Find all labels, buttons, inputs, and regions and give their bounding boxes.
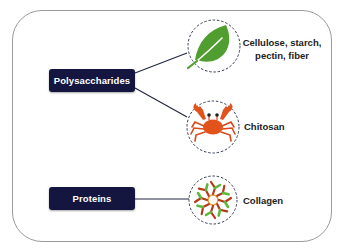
item-label-collagen: Collagen	[243, 194, 283, 207]
connector-line-polysaccharides-leaf	[135, 53, 187, 73]
category-label: Proteins	[73, 193, 112, 204]
category-label: Polysaccharides	[54, 75, 131, 86]
leaf-node	[188, 20, 240, 72]
connector-line-polysaccharides-crab	[135, 88, 187, 117]
collagen-node	[189, 176, 237, 224]
item-label-cellulose: Cellulose, starch, pectin, fiber	[242, 36, 322, 62]
item-label-chitosan: Chitosan	[244, 120, 285, 133]
category-box-proteins: Proteins	[49, 187, 135, 210]
label-line-1: Cellulose, starch,	[242, 36, 322, 49]
crab-node	[187, 101, 239, 153]
label-line-2: pectin, fiber	[242, 49, 322, 62]
category-box-polysaccharides: Polysaccharides	[49, 69, 135, 92]
